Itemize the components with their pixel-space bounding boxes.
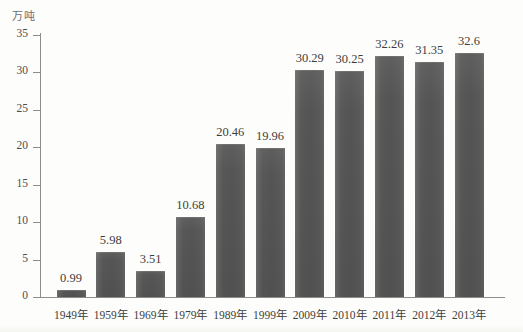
bar [375,56,404,297]
plot-area: 万吨 05101520253035 0.995.983.5110.6820.46… [0,0,523,332]
bar [136,271,165,297]
bar [96,252,125,297]
bar [335,71,364,297]
bar [176,217,205,297]
bar [415,62,444,297]
bar-value-label: 5.98 [83,233,139,248]
bar-value-label: 19.96 [242,129,298,144]
bar-value-label: 32.6 [441,34,497,49]
bar-value-label: 30.25 [322,52,378,67]
x-axis-category-label: 2013年 [441,306,497,322]
bar [57,290,86,297]
bar-value-label: 0.99 [43,271,99,286]
bar [295,70,324,297]
bars-layer: 0.995.983.5110.6820.4619.9630.2930.2532.… [0,0,523,332]
bar [256,148,285,297]
bar-value-label: 10.68 [162,198,218,213]
bar [455,53,484,297]
bar [216,144,245,297]
bar-chart: 万吨 05101520253035 0.995.983.5110.6820.46… [0,0,523,332]
bar-value-label: 3.51 [123,252,179,267]
